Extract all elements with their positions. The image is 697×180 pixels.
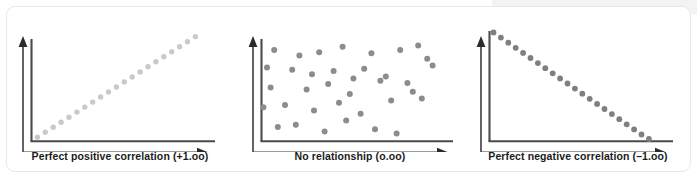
plot-area-perfect-positive	[4, 12, 236, 152]
data-points-perfect-positive	[35, 34, 198, 140]
panel-container: Perfect positive correlation (+1.oo)	[0, 0, 697, 180]
data-points-no-relationship	[260, 43, 435, 137]
scatter-plot-perfect-positive	[4, 12, 236, 152]
caption-perfect-positive: Perfect positive correlation (+1.oo)	[4, 150, 236, 162]
caption-no-relationship: No relationship (o.oo)	[234, 150, 466, 162]
outer-arrow-axes	[477, 36, 666, 152]
plot-area-no-relationship	[234, 12, 466, 152]
panel-no-relationship: No relationship (o.oo)	[234, 12, 466, 168]
scatter-plot-perfect-negative	[462, 12, 694, 152]
inner-plot-axes	[261, 39, 454, 142]
caption-perfect-negative: Perfect negative correlation (–1.oo)	[462, 150, 694, 162]
correlation-figure: Perfect positive correlation (+1.oo)	[0, 0, 697, 180]
outer-arrow-axes	[19, 36, 208, 152]
scatter-plot-no-relationship	[234, 12, 466, 152]
plot-area-perfect-negative	[462, 12, 694, 152]
panel-perfect-negative: Perfect negative correlation (–1.oo)	[462, 12, 694, 168]
inner-plot-axes	[31, 39, 216, 142]
data-points-perfect-negative	[491, 30, 652, 142]
panel-perfect-positive: Perfect positive correlation (+1.oo)	[4, 12, 236, 168]
